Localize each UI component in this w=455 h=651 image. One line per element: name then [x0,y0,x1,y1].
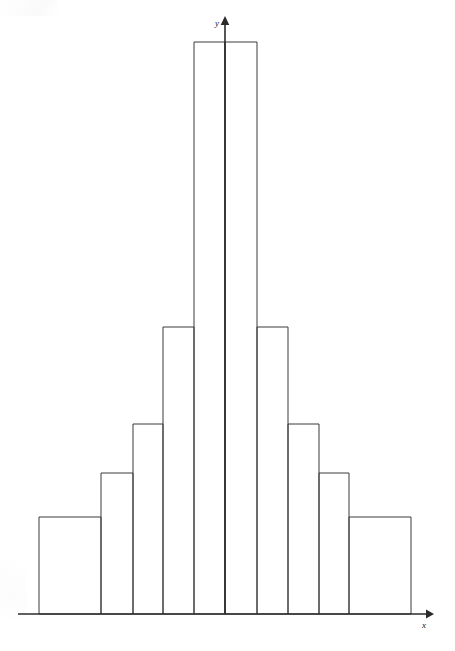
axes-group: x y [18,16,434,630]
y-axis-label: y [214,18,219,28]
histogram-bar [101,473,133,614]
histogram-bar [163,327,194,614]
histogram-bar [319,473,349,614]
y-axis-arrow-icon [221,16,230,25]
histogram-bar [39,517,101,614]
histogram-bar [133,424,163,614]
histogram-bar [225,42,257,614]
figure-canvas: x y [0,0,455,651]
histogram-bar [288,424,319,614]
histogram-bar [349,517,411,614]
histogram-bar [194,42,225,614]
x-axis-label: x [421,620,426,630]
x-axis-arrow-icon [426,610,434,619]
histogram-bar [257,327,288,614]
histogram-chart: x y [0,0,455,651]
